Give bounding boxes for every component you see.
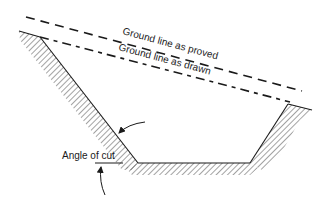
cutting-cross-section-diagram: Ground line as proved Ground line as dra…	[0, 0, 326, 205]
label-angle-of-cut: Angle of cut	[62, 150, 115, 161]
left-cut-slope	[40, 37, 138, 163]
horizontal-pointer-arrow	[101, 167, 106, 195]
slope-pointer-arrow	[119, 122, 145, 133]
